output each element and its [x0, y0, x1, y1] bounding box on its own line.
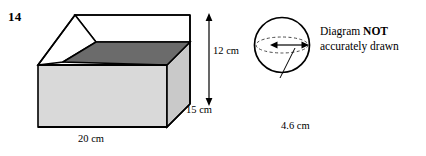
- notice-line1-emphasis: NOT: [363, 25, 388, 37]
- label-box-width: 20 cm: [78, 133, 104, 144]
- label-box-depth: 15 cm: [186, 104, 212, 115]
- not-accurately-drawn-notice: Diagram NOT accurately drawn: [320, 24, 399, 54]
- notice-line1-prefix: Diagram: [320, 25, 363, 37]
- label-sphere-radius: 4.6 cm: [281, 120, 310, 131]
- notice-line2: accurately drawn: [320, 39, 399, 54]
- label-box-height: 12 cm: [213, 45, 239, 56]
- exam-question-figure: 14: [0, 0, 426, 156]
